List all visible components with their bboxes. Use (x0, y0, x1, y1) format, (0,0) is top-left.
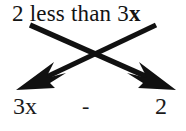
expression-operator: - (82, 92, 89, 120)
arrow-variable-to-left-term-icon (16, 25, 156, 90)
expression-right-term: 2 (155, 92, 167, 120)
math-phrase-translation-diagram: 2 less than 3x 3x - 2 (0, 0, 186, 131)
expression-left-term: 3x (13, 92, 37, 120)
